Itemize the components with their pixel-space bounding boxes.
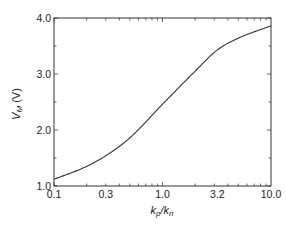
plot-frame (54, 18, 271, 186)
x-tick-label: 3.2 (210, 188, 225, 200)
x-axis-label: kp/kn (151, 204, 175, 218)
x-tick-label: 0.3 (98, 188, 113, 200)
axis-ticks (54, 18, 271, 186)
y-tick-label: 3.0 (36, 68, 51, 80)
x-tick-label: 1.0 (155, 188, 170, 200)
chart: 0.10.31.03.210.01.02.03.04.0 kp/kn VM (V… (0, 0, 286, 228)
x-tick-label: 10.0 (261, 188, 282, 200)
y-tick-label: 2.0 (36, 124, 51, 136)
y-tick-label: 4.0 (36, 12, 51, 24)
vm-curve (54, 26, 271, 179)
y-tick-label: 1.0 (36, 180, 51, 192)
y-axis-label: VM (V) (10, 88, 24, 120)
